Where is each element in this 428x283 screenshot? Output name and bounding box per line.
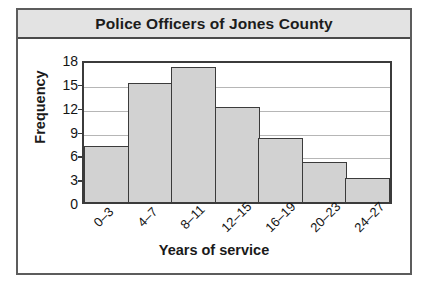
page-title: Police Officers of Jones County — [95, 15, 332, 33]
y-tick-label: 15 — [48, 77, 78, 93]
x-tick-label: 24–27 — [351, 199, 387, 235]
bar — [258, 138, 303, 202]
x-tick-label: 4–7 — [135, 204, 161, 230]
x-axis-label: Years of service — [18, 242, 410, 258]
x-tick-label: 16–19 — [262, 199, 298, 235]
y-tick-label: 12 — [48, 101, 78, 117]
bar — [215, 107, 260, 202]
bar — [128, 83, 173, 202]
histogram-figure: Police Officers of Jones County Frequenc… — [16, 8, 412, 275]
bar — [345, 178, 390, 202]
y-tick-label: 9 — [48, 125, 78, 141]
y-tick-label: 18 — [48, 53, 78, 69]
y-axis-ticks: 0369121518 — [44, 61, 78, 204]
chart-title-bar: Police Officers of Jones County — [18, 10, 410, 39]
y-tick-label: 3 — [48, 172, 78, 188]
plot-area — [82, 61, 392, 204]
x-tick-label: 8–11 — [177, 202, 207, 232]
x-tick-label: 12–15 — [218, 199, 254, 235]
x-tick-label: 20–23 — [307, 199, 343, 235]
bar — [302, 162, 347, 202]
bar — [171, 67, 216, 202]
y-tick-label: 0 — [48, 196, 78, 212]
bar-series — [84, 63, 390, 202]
bar — [84, 146, 129, 202]
chart-plot-region: Frequency 0369121518 0–34–78–1112–1516–1… — [18, 39, 410, 275]
y-tick-label: 6 — [48, 148, 78, 164]
x-tick-label: 0–3 — [91, 204, 117, 230]
